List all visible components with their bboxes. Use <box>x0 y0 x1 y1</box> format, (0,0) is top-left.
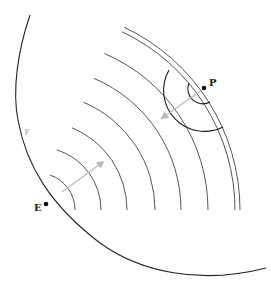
boundary-curve <box>16 15 266 276</box>
point-e-label: E <box>34 202 42 213</box>
wavefront-diagram: P E γ <box>0 0 271 293</box>
wavefront-arc <box>84 102 155 210</box>
point-e-dot <box>44 202 49 207</box>
wavefront-arcs <box>50 27 240 210</box>
point-p-label: P <box>209 77 217 88</box>
wavefront-arc <box>94 78 181 210</box>
wavefront-arc <box>50 175 75 210</box>
curve-label: γ <box>24 126 29 135</box>
point-p-dot <box>202 86 207 91</box>
wavefront-arc <box>104 54 208 211</box>
wavefront-arc <box>124 27 240 210</box>
inward-arrow <box>162 90 202 118</box>
